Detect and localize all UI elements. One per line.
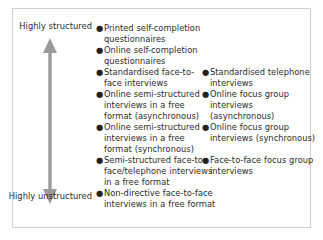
structure-continuum-axis: Highly structured Highly unstructured [13, 9, 96, 229]
list-item: ● Online focus group interviews (synchro… [202, 122, 320, 144]
list-item-label: Online focus group interviews (asynchron… [210, 89, 294, 123]
bullet-icon: ● [202, 122, 209, 133]
list-item: ● Online semi-structured interviews in a… [96, 122, 204, 156]
list-item: ● Non-directive face-to-face interviews … [96, 188, 216, 210]
list-item-label: Online focus group interviews (synchrono… [210, 122, 320, 144]
list-item-label: Online semi-structured interviews in a f… [104, 89, 204, 123]
list-item-label: Online self-completion questionnaires [104, 45, 204, 67]
axis-label-highly-unstructured: Highly unstructured [9, 191, 92, 201]
list-item-label: Face-to-face focus group interviews [210, 155, 318, 177]
list-item-label: Standardised face-to-face interviews [104, 67, 204, 89]
bullet-icon: ● [202, 89, 209, 100]
bullet-icon: ● [96, 122, 103, 133]
list-item: ● Standardised face-to-face interviews [96, 67, 204, 89]
bullet-icon: ● [202, 67, 209, 78]
double-headed-vertical-arrow-icon [39, 37, 61, 205]
list-item: ● Online focus group interviews (asynchr… [202, 89, 294, 123]
bullet-icon: ● [96, 89, 103, 100]
bullet-icon: ● [96, 45, 103, 56]
list-item-label: Standardised telephone interviews [210, 67, 310, 89]
bullet-icon: ● [96, 67, 103, 78]
axis-label-highly-structured: Highly structured [19, 21, 92, 31]
list-item-label: Non-directive face-to-face interviews in… [104, 188, 216, 210]
list-item: ● Printed self-completion questionnaires [96, 23, 204, 45]
bullet-icon: ● [96, 23, 103, 34]
list-item-label: Printed self-completion questionnaires [104, 23, 204, 45]
bullet-icon: ● [202, 155, 209, 166]
bullet-icon: ● [96, 155, 103, 166]
bullet-icon: ● [96, 188, 103, 199]
list-item: ● Online self-completion questionnaires [96, 45, 204, 67]
figure-frame: Highly structured Highly unstructured [12, 8, 311, 228]
list-item-label: Semi-structured face-to-face/telephone i… [104, 155, 218, 189]
list-item: ● Face-to-face focus group interviews [202, 155, 318, 177]
list-item: ● Standardised telephone interviews [202, 67, 310, 89]
list-item: ● Online semi-structured interviews in a… [96, 89, 204, 123]
list-item-label: Online semi-structured interviews in a f… [104, 122, 204, 156]
list-item: ● Semi-structured face-to-face/telephone… [96, 155, 218, 189]
